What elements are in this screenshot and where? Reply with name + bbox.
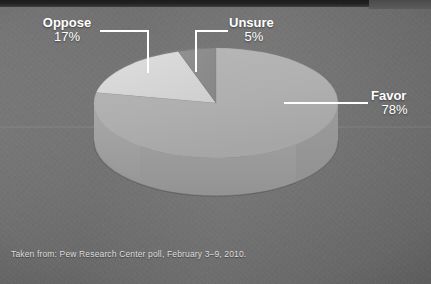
slice-label-unsure-name: Unsure [229, 16, 289, 30]
slice-label-favor: Favor 78% [371, 89, 429, 117]
slice-label-unsure-percent: 5% [229, 30, 279, 44]
slice-label-favor-name: Favor [371, 89, 429, 103]
source-caption: Taken from: Pew Research Center poll, Fe… [11, 249, 246, 259]
slice-label-oppose-percent: 17% [38, 30, 96, 44]
pie-chart-screenshot: Oppose 17% Unsure 5% Favor 78% Taken fro… [0, 0, 431, 284]
slice-label-oppose-name: Oppose [38, 16, 96, 30]
slice-label-unsure: Unsure 5% [229, 16, 289, 44]
slice-label-oppose: Oppose 17% [38, 16, 96, 44]
slice-label-favor-percent: 78% [371, 103, 418, 117]
